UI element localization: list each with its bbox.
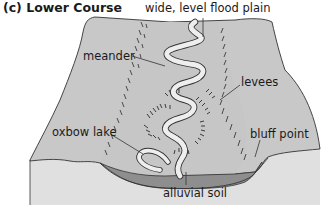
figure-title: (c) Lower Course [3,0,122,15]
oxbow-lake-label: oxbow lake [52,125,116,139]
lower-course-diagram: (c) Lower Course wide, level flood plain… [0,0,326,210]
levees-label: levees [241,75,278,89]
meander-label: meander [83,49,135,63]
flood-plain-label: wide, level flood plain [145,1,271,15]
bluff-point-label: bluff point [250,127,309,141]
alluvial-soil-label: alluvial soil [163,186,227,200]
